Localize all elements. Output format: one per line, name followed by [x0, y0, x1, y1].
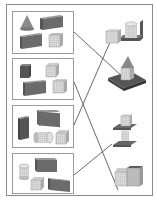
cube-icon: [56, 130, 69, 144]
cylinder-icon: [19, 164, 29, 180]
prism-icon: [48, 178, 70, 192]
cube-icon: [46, 63, 59, 77]
cube-icon: [49, 33, 63, 47]
prism-icon: [18, 116, 29, 140]
figure-4[interactable]: [115, 166, 143, 186]
prism-icon: [35, 158, 57, 172]
cylinder-icon: [34, 132, 54, 143]
set-3-box[interactable]: [13, 106, 74, 148]
cube-icon: [20, 64, 31, 78]
set-1-box[interactable]: [13, 12, 74, 54]
set-4-box[interactable]: [13, 154, 74, 194]
cube-icon: [31, 177, 44, 190]
set-2-box[interactable]: [13, 59, 74, 100]
matching-diagram: [0, 0, 157, 206]
cube-icon: [53, 79, 67, 93]
diagram-canvas: [0, 0, 157, 206]
